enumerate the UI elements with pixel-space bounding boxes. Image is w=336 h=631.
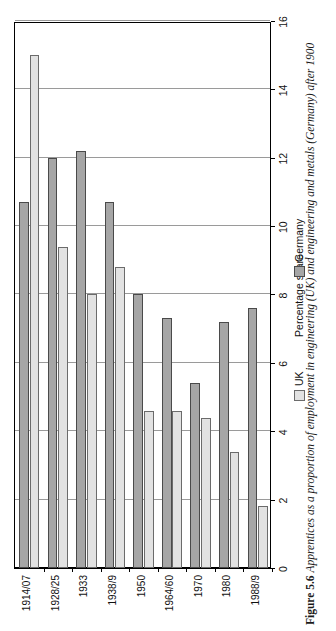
- category-label: 1938/9: [107, 575, 118, 606]
- bar-group: [101, 23, 130, 568]
- category-tick: [101, 568, 102, 572]
- value-tick-label: 16: [277, 16, 289, 28]
- value-tick-label: 2: [277, 498, 289, 504]
- value-tick-label: 0: [277, 566, 289, 572]
- category-label: 1914/07: [21, 575, 32, 611]
- bar-uk-1950: [144, 411, 154, 568]
- category-label: 1950: [136, 575, 147, 597]
- category-tick: [186, 568, 187, 572]
- plot-area: [14, 22, 271, 569]
- bar-uk-1933: [87, 295, 97, 569]
- bar-uk-1970: [201, 418, 211, 568]
- value-tick-label: 8: [277, 293, 289, 299]
- category-label: 1970: [193, 575, 204, 597]
- bar-uk-1988-9: [258, 506, 268, 568]
- category-tick: [215, 568, 216, 572]
- category-label: 1980: [221, 575, 232, 597]
- bar-group: [243, 23, 272, 568]
- value-tick-label: 4: [277, 429, 289, 435]
- value-tick-label: 10: [277, 221, 289, 233]
- bar-germany-1964-60: [162, 318, 172, 568]
- category-label: 1988/9: [250, 575, 261, 606]
- figure-caption-text: Apprentices as a proportion of employmen…: [304, 43, 316, 573]
- figure-number: Figure 5.6: [304, 575, 316, 625]
- chart-area: 1614121086420 Percentage share UKGermany…: [0, 0, 292, 631]
- category-tick: [44, 568, 45, 572]
- bar-uk-1914-07: [30, 55, 40, 568]
- bar-group: [15, 23, 44, 568]
- value-tick: [271, 21, 275, 22]
- value-tick: [271, 295, 275, 296]
- bar-germany-1933: [76, 151, 86, 568]
- value-tick-label: 6: [277, 361, 289, 367]
- category-tick: [129, 568, 130, 572]
- value-tick: [271, 568, 275, 569]
- bar-group: [72, 23, 101, 568]
- bar-germany-1950: [133, 295, 143, 569]
- category-tick: [72, 568, 73, 572]
- bar-germany-1980: [219, 322, 229, 568]
- bar-uk-1938-9: [115, 267, 125, 568]
- bar-uk-1928-25: [58, 247, 68, 568]
- bar-germany-1914-07: [19, 202, 29, 568]
- value-tick-label: 12: [277, 153, 289, 165]
- bar-germany-1928-25: [48, 158, 58, 568]
- value-tick-label: 14: [277, 85, 289, 97]
- category-label: 1933: [78, 575, 89, 597]
- bar-group: [215, 23, 244, 568]
- bar-uk-1980: [230, 452, 240, 568]
- value-tick: [271, 500, 275, 501]
- value-tick: [271, 226, 275, 227]
- bar-group: [186, 23, 215, 568]
- bar-group: [129, 23, 158, 568]
- figure-caption: Figure 5.6 Apprentices as a proportion o…: [303, 5, 317, 625]
- category-label: 1964/60: [164, 575, 175, 611]
- bar-group: [158, 23, 187, 568]
- gridline: [15, 20, 270, 21]
- value-tick: [271, 158, 275, 159]
- rotated-figure-frame: 1614121086420 Percentage share UKGermany…: [0, 0, 336, 631]
- category-label: 1928/25: [50, 575, 61, 611]
- bar-group: [44, 23, 73, 568]
- category-tick: [243, 568, 244, 572]
- category-tick: [158, 568, 159, 572]
- bar-germany-1938-9: [105, 202, 115, 568]
- bar-uk-1964-60: [172, 411, 182, 568]
- value-tick: [271, 363, 275, 364]
- value-tick: [271, 89, 275, 90]
- bar-germany-1970: [190, 383, 200, 568]
- bar-germany-1988-9: [248, 308, 258, 568]
- value-tick: [271, 431, 275, 432]
